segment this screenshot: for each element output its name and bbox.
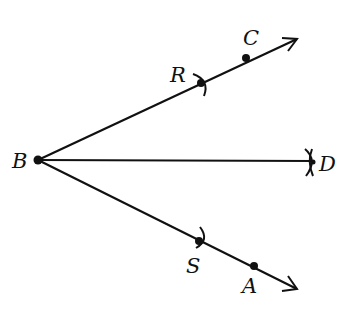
point-r: [197, 79, 205, 87]
label-r: R: [169, 63, 186, 87]
point-a: [250, 262, 258, 270]
ray-bd: [38, 160, 314, 161]
label-d: D: [318, 152, 336, 176]
point-b: [34, 156, 43, 165]
label-s: S: [186, 254, 200, 278]
label-c: C: [243, 26, 259, 50]
angle-bisector-diagram: B R C D S A: [0, 0, 359, 317]
label-b: B: [11, 149, 27, 173]
ray-bc: [38, 38, 297, 160]
point-c: [242, 54, 250, 62]
point-s: [195, 237, 203, 245]
point-d: [311, 160, 316, 165]
label-a: A: [240, 274, 257, 298]
ray-ba: [38, 160, 297, 291]
